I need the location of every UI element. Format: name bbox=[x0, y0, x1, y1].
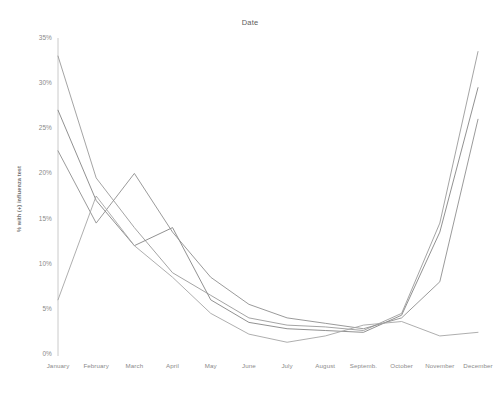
plot-area bbox=[0, 0, 500, 394]
series-line bbox=[58, 196, 478, 342]
series-line bbox=[58, 119, 478, 328]
series-layer bbox=[58, 52, 478, 343]
line-chart: Date % with (+) influenza test 35%30%25%… bbox=[0, 0, 500, 394]
